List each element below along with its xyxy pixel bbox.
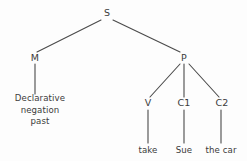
tree-leaf-sue: Sue — [176, 145, 193, 156]
tree-leaf-m-line-1: Declarative — [15, 93, 65, 105]
tree-node-m: M — [31, 53, 39, 64]
tree-edge-s-m — [37, 20, 101, 52]
syntax-tree-diagram: S M P V C1 C2 Declarative negation past … — [0, 0, 247, 161]
tree-edges-layer — [0, 0, 247, 161]
tree-leaf-m-line-2: negation — [15, 104, 65, 116]
tree-leaf-m-line-3: past — [15, 116, 65, 128]
tree-node-v: V — [145, 98, 152, 109]
tree-edge-s-p — [113, 20, 180, 52]
tree-node-c1: C1 — [178, 98, 191, 109]
tree-node-c2: C2 — [216, 98, 229, 109]
tree-edge-p-c2 — [189, 64, 219, 97]
tree-leaf-m: Declarative negation past — [15, 93, 65, 128]
tree-leaf-the-car: the car — [205, 145, 236, 156]
tree-leaf-take: take — [139, 145, 158, 156]
tree-edge-p-v — [150, 64, 180, 97]
tree-node-p: P — [181, 53, 187, 64]
tree-node-s: S — [104, 8, 110, 19]
